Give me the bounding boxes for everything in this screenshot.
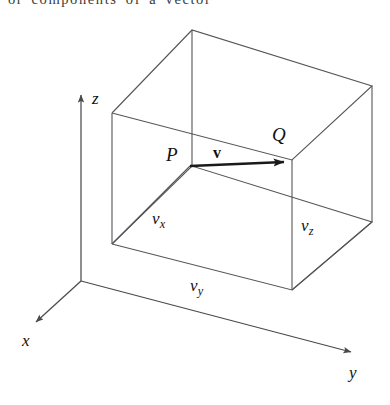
vector-components-figure: or components of a vector [0,0,390,405]
x-axis-line [36,281,81,322]
point-label-q: Q [272,125,286,144]
vector-label-v: v [213,145,221,161]
box-bottom-face [112,166,372,290]
point-label-p: P [166,145,178,164]
axis-label-z: z [92,90,99,107]
component-vx-base: v [152,209,160,228]
component-label-vz: vz [301,217,314,237]
axis-label-y: y [349,364,357,381]
diagram-svg [0,0,390,405]
box-diagonal-px [112,166,190,244]
box-wireframe [112,30,372,290]
axis-label-x: x [22,332,30,349]
component-label-vy: vy [190,277,203,297]
component-vz-base: v [301,216,309,235]
vector-arrow [190,162,284,166]
y-axis-line [81,281,351,352]
component-vy-base: v [190,276,198,295]
box-top-face [112,30,372,160]
vector-v-arrow [190,162,284,166]
component-vx-subscript: x [160,217,165,231]
component-vz-subscript: z [309,224,314,238]
component-vy-subscript: y [198,284,203,298]
component-label-vx: vx [152,210,165,230]
